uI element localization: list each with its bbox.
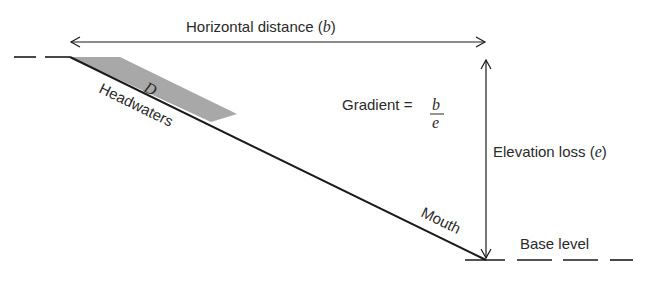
base-level-label: Base level [520,235,589,252]
mouth-label: Mouth [419,203,464,237]
elevation-loss-label: Elevation loss (e) [493,143,607,160]
gradient-numerator: b [432,96,440,113]
stream-profile-line [70,57,486,260]
stream-gradient-diagram: Horizontal distance (b) Gradient = b e E… [0,0,651,284]
diagram-canvas: Horizontal distance (b) Gradient = b e E… [0,0,651,284]
gradient-denominator: e [432,114,439,131]
gradient-label: Gradient = [342,96,413,113]
horizontal-distance-label: Horizontal distance (b) [186,18,336,35]
